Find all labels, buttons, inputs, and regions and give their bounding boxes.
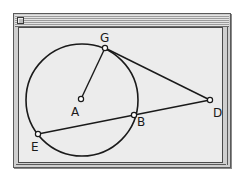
point-d[interactable] bbox=[207, 97, 212, 102]
segment-gd bbox=[105, 48, 210, 100]
label-b: B bbox=[137, 115, 145, 129]
point-b[interactable] bbox=[131, 112, 136, 117]
point-e[interactable] bbox=[35, 131, 40, 136]
label-d: D bbox=[213, 106, 222, 120]
title-bar[interactable] bbox=[15, 15, 229, 27]
label-g: G bbox=[100, 31, 109, 45]
geometry-window: G A D B E bbox=[13, 13, 231, 168]
point-a[interactable] bbox=[78, 96, 83, 101]
window-frame-bottom bbox=[16, 164, 226, 165]
window-frame-right bbox=[227, 27, 228, 165]
segment-ed bbox=[38, 100, 210, 134]
diagram-canvas: G A D B E bbox=[18, 27, 223, 163]
label-a: A bbox=[71, 105, 80, 119]
geometry-diagram: G A D B E bbox=[19, 28, 223, 163]
label-e: E bbox=[31, 140, 39, 154]
point-g[interactable] bbox=[102, 45, 107, 50]
close-box-icon[interactable] bbox=[17, 17, 24, 24]
segment-ag bbox=[81, 48, 105, 99]
